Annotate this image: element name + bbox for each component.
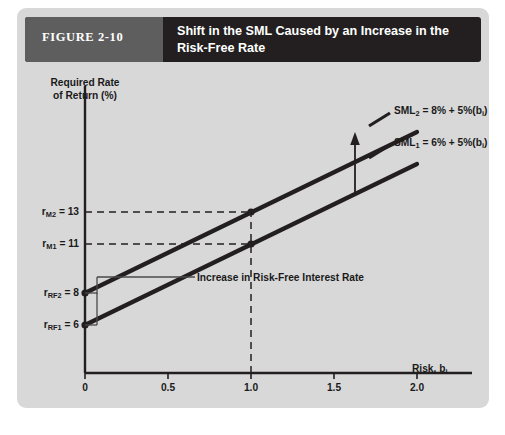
x-tick-label-2.0: 2.0 bbox=[397, 382, 437, 393]
y-tick-label-rRF2: rRF2 = 8 bbox=[17, 287, 79, 298]
y-tick-value: = 8 bbox=[62, 287, 79, 298]
y-tick-subscript: M2 bbox=[46, 210, 56, 219]
data-point-markers bbox=[81, 208, 254, 328]
y-tick-subscript: RF1 bbox=[48, 323, 62, 332]
sml1-label-name: SML bbox=[394, 137, 416, 148]
y-tick-subscript: M1 bbox=[46, 242, 56, 251]
figure-panel: FIGURE 2-10 Shift in the SML Caused by a… bbox=[17, 8, 489, 408]
annotation-increase-in-risk-free-rate: Increase in Risk-Free Interest Rate bbox=[197, 272, 364, 283]
sml2-label-name: SML bbox=[394, 105, 416, 116]
x-tick-label-0: 0 bbox=[65, 382, 105, 393]
dashed-guides bbox=[85, 212, 251, 373]
sml1-label-equation: = 6% + 5%(b bbox=[420, 137, 482, 148]
sml2-label-beta-subscript: i bbox=[482, 109, 484, 118]
x-axis-title-text: Risk, b bbox=[412, 363, 445, 374]
sml2-label: SML2 = 8% + 5%(bi) bbox=[394, 105, 487, 116]
y-axis-title-line2: of Return (%) bbox=[53, 90, 117, 101]
y-tick-subscript: RF2 bbox=[48, 291, 62, 300]
sml1-label: SML1 = 6% + 5%(bi) bbox=[394, 137, 487, 148]
sml-label-leaders bbox=[369, 113, 390, 158]
sml1-label-beta-subscript: i bbox=[482, 141, 484, 150]
chart-plot-area: Required Rate of Return (%) Risk, bi rM2… bbox=[17, 8, 489, 408]
x-tick-label-1.0: 1.0 bbox=[231, 382, 271, 393]
sml2-label-equation: = 8% + 5%(b bbox=[420, 105, 482, 116]
sml1-label-subscript: 1 bbox=[416, 141, 420, 150]
y-tick-value: = 6 bbox=[62, 319, 79, 330]
y-tick-value: = 11 bbox=[57, 238, 79, 249]
x-axis-title: Risk, bi bbox=[412, 363, 447, 374]
sml2-label-tail: ) bbox=[484, 105, 487, 116]
x-tick-label-1.5: 1.5 bbox=[314, 382, 354, 393]
sml2-label-subscript: 2 bbox=[416, 109, 420, 118]
y-tick-label-rRF1: rRF1 = 6 bbox=[17, 319, 79, 330]
y-tick-value: = 13 bbox=[56, 206, 79, 217]
y-axis-title: Required Rate of Return (%) bbox=[37, 76, 133, 102]
chart-svg bbox=[17, 8, 489, 408]
y-axis-title-line1: Required Rate bbox=[50, 77, 119, 88]
y-tick-label-rM1: rM1 = 11 bbox=[17, 238, 79, 249]
x-tick-label-0.5: 0.5 bbox=[148, 382, 188, 393]
y-tick-label-rM2: rM2 = 13 bbox=[17, 206, 79, 217]
sml1-label-tail: ) bbox=[484, 137, 487, 148]
